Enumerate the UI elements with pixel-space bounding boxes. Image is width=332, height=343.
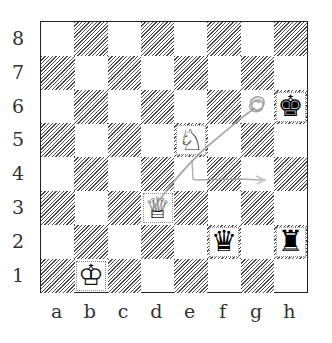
square-f7 [207,56,241,90]
square-g4 [241,157,275,191]
white-king-b1: ♔ [76,261,106,291]
square-g1 [241,259,275,293]
square-c1 [108,259,142,293]
square-c5 [108,123,142,157]
rank-label-5: 5 [10,130,26,149]
white-king-icon: ♔ [74,259,108,293]
file-label-h: h [279,302,299,321]
black-queen-f2: ♛ [209,227,239,257]
square-c6 [108,90,142,124]
square-b2 [74,225,108,259]
square-h4 [274,157,308,191]
square-f1 [207,259,241,293]
square-e7 [174,56,208,90]
square-c8 [108,22,142,56]
square-g6 [241,90,275,124]
square-h7 [274,56,308,90]
square-g7 [241,56,275,90]
square-a4 [41,157,75,191]
square-e3 [174,191,208,225]
white-knight-icon: ♘ [174,123,208,157]
black-king-h6: ♚ [276,92,306,122]
square-a7 [41,56,75,90]
square-f3 [207,191,241,225]
white-queen-icon: ♕ [141,191,175,225]
square-d7 [141,56,175,90]
square-g8 [241,22,275,56]
square-e4 [174,157,208,191]
rank-label-7: 7 [10,63,26,82]
file-label-b: b [80,302,100,321]
file-label-e: e [180,302,200,321]
file-label-a: a [47,302,67,321]
square-d4 [141,157,175,191]
rank-label-1: 1 [10,266,26,285]
square-c4 [108,157,142,191]
square-h3 [274,191,308,225]
square-f8 [207,22,241,56]
square-b3 [74,191,108,225]
rank-label-4: 4 [10,164,26,183]
square-a3 [41,191,75,225]
square-a2 [41,225,75,259]
square-b7 [74,56,108,90]
rank-label-2: 2 [10,232,26,251]
square-f6 [207,90,241,124]
square-c3 [108,191,142,225]
file-label-f: f [213,302,233,321]
square-a6 [41,90,75,124]
square-b6 [74,90,108,124]
square-g3 [241,191,275,225]
black-king-icon: ♚ [274,90,308,124]
square-b5 [74,123,108,157]
square-a1 [41,259,75,293]
black-rook-icon: ♜ [274,225,308,259]
square-a5 [41,123,75,157]
square-d8 [141,22,175,56]
square-e6 [174,90,208,124]
square-c7 [108,56,142,90]
square-b8 [74,22,108,56]
square-c2 [108,225,142,259]
square-a8 [41,22,75,56]
square-h1 [274,259,308,293]
square-f5 [207,123,241,157]
square-d6 [141,90,175,124]
square-g5 [241,123,275,157]
square-d5 [141,123,175,157]
square-d2 [141,225,175,259]
rank-label-3: 3 [10,198,26,217]
white-queen-d3: ♕ [143,193,173,223]
square-e1 [174,259,208,293]
white-knight-e5: ♘ [176,125,206,155]
file-label-g: g [246,302,266,321]
square-e8 [174,22,208,56]
square-h5 [274,123,308,157]
square-g2 [241,225,275,259]
black-queen-icon: ♛ [207,225,241,259]
square-b4 [74,157,108,191]
square-f4 [207,157,241,191]
square-h8 [274,22,308,56]
black-rook-h2: ♜ [276,227,306,257]
file-label-d: d [146,302,166,321]
rank-label-6: 6 [10,97,26,116]
rank-label-8: 8 [10,29,26,48]
square-d1 [141,259,175,293]
square-e2 [174,225,208,259]
file-label-c: c [113,302,133,321]
